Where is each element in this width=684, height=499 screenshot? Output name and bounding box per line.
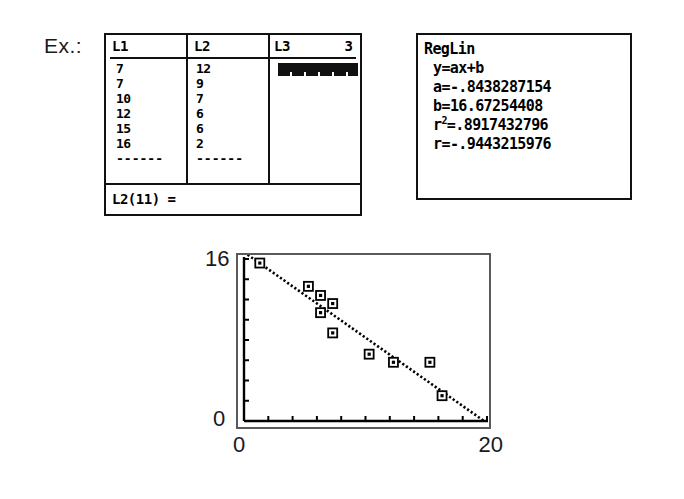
column-header-l1[interactable]: L1 — [112, 39, 128, 53]
cell-l1-4[interactable]: 12 — [116, 106, 163, 121]
scatter-plot-figure: 16 0 0 20 — [205, 246, 505, 464]
data-point — [425, 358, 434, 367]
y-axis-max-label: 16 — [205, 246, 229, 272]
cell-l2-6[interactable]: 2 — [196, 136, 243, 151]
column-values-l2[interactable]: 12 9 7 6 6 2 ------ — [196, 61, 243, 166]
regression-model: y=ax+b — [424, 59, 630, 78]
regression-intercept: b=16.67254408 — [424, 97, 630, 116]
intercept-value: 16.67254408 — [450, 97, 543, 115]
cell-l2-3[interactable]: 7 — [196, 91, 243, 106]
example-label: Ex.: — [44, 34, 82, 58]
data-point — [316, 308, 325, 317]
slope-label: a= — [433, 78, 450, 96]
list-editor-grid: L1 L2 L3 3 7 7 10 12 15 16 ------ 12 9 7… — [106, 35, 360, 183]
column-values-l1[interactable]: 7 7 10 12 15 16 ------ — [116, 61, 163, 166]
cell-l2-dashes: ------ — [196, 151, 243, 166]
regression-slope: a=-.8438287154 — [424, 78, 630, 97]
cell-cursor-highlight[interactable] — [278, 63, 358, 76]
header-rule — [110, 57, 356, 59]
y-axis-min-label: 0 — [213, 406, 225, 432]
cell-l1-1[interactable]: 7 — [116, 61, 163, 76]
cell-l2-4[interactable]: 6 — [196, 106, 243, 121]
cell-l1-2[interactable]: 7 — [116, 76, 163, 91]
data-point — [328, 328, 337, 337]
cell-l1-3[interactable]: 10 — [116, 91, 163, 106]
data-point — [304, 282, 313, 291]
plot-canvas — [238, 255, 489, 427]
data-point — [365, 350, 374, 359]
r-label: r= — [433, 135, 450, 153]
cell-l1-6[interactable]: 16 — [116, 136, 163, 151]
regression-fit-line — [244, 255, 484, 421]
regression-r: r=-.9443215976 — [424, 135, 630, 154]
cell-l2-1[interactable]: 12 — [196, 61, 243, 76]
data-point — [389, 358, 398, 367]
column-index-indicator: 3 — [345, 39, 353, 53]
r-squared-value: =.8917432796 — [447, 116, 548, 134]
x-axis-min-label: 0 — [233, 432, 245, 458]
status-rule — [106, 183, 360, 185]
r-value: -.9443215976 — [450, 135, 551, 153]
cell-l2-5[interactable]: 6 — [196, 121, 243, 136]
regression-title: RegLin — [424, 40, 630, 59]
column-header-l3[interactable]: L3 — [274, 39, 290, 53]
cell-l1-5[interactable]: 15 — [116, 121, 163, 136]
cell-l1-dashes: ------ — [116, 151, 163, 166]
intercept-label: b= — [433, 97, 450, 115]
regression-result-screen: RegLin y=ax+b a=-.8438287154 b=16.672544… — [416, 33, 632, 200]
status-line: L2(11) = — [112, 192, 175, 207]
x-axis-max-label: 20 — [479, 432, 503, 458]
cell-l2-2[interactable]: 9 — [196, 76, 243, 91]
regression-r-squared: r2=.8917432796 — [424, 116, 630, 135]
slope-value: -.8438287154 — [450, 78, 551, 96]
list-editor-screen[interactable]: L1 L2 L3 3 7 7 10 12 15 16 ------ 12 9 7… — [104, 33, 362, 216]
column-header-l2[interactable]: L2 — [194, 39, 210, 53]
data-point — [438, 391, 447, 400]
data-point — [328, 299, 337, 308]
plot-frame — [236, 253, 491, 429]
data-point — [255, 259, 264, 268]
data-point — [316, 291, 325, 300]
